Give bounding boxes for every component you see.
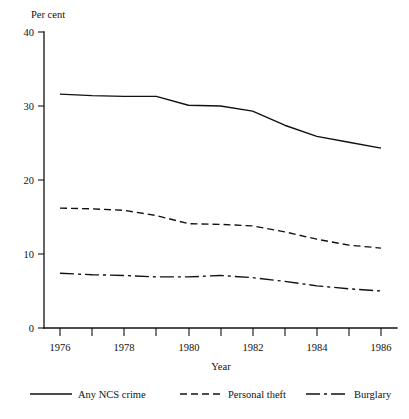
chart-legend: Any NCS crime Personal theft Burglary — [30, 389, 392, 400]
series-line-personal-theft — [60, 208, 381, 248]
y-axis-tick-labels: 40 30 20 10 0 — [24, 27, 35, 334]
x-axis-title: Year — [211, 361, 231, 372]
y-tick-label-30: 30 — [24, 101, 35, 112]
chart-figure: Per cent 40 30 20 10 0 — [0, 0, 409, 419]
x-axis-tick-labels: 1976 1978 1980 1982 1984 1986 — [50, 342, 392, 353]
y-tick-label-10: 10 — [24, 249, 35, 260]
x-tick-label-1978: 1978 — [114, 342, 135, 353]
series-line-any-ncs-crime — [60, 94, 381, 148]
x-tick-label-1980: 1980 — [179, 342, 200, 353]
legend-entry-burglary: Burglary — [306, 389, 392, 400]
y-axis-ticks — [38, 32, 44, 328]
y-axis-title: Per cent — [31, 9, 65, 20]
legend-label-any-ncs-crime: Any NCS crime — [78, 389, 146, 400]
series-line-burglary — [60, 273, 381, 291]
legend-label-personal-theft: Personal theft — [228, 389, 286, 400]
crime-rate-line-chart: Per cent 40 30 20 10 0 — [0, 0, 409, 419]
x-tick-label-1986: 1986 — [371, 342, 392, 353]
x-tick-label-1982: 1982 — [243, 342, 264, 353]
x-axis-ticks — [60, 328, 381, 336]
plot-series-group — [60, 94, 381, 291]
legend-entry-personal-theft: Personal theft — [180, 389, 286, 400]
x-tick-label-1984: 1984 — [307, 342, 329, 353]
legend-label-burglary: Burglary — [354, 389, 392, 400]
y-tick-label-20: 20 — [24, 175, 35, 186]
legend-entry-any-ncs-crime: Any NCS crime — [30, 389, 146, 400]
y-tick-label-40: 40 — [24, 27, 35, 38]
x-tick-label-1976: 1976 — [50, 342, 71, 353]
y-tick-label-0: 0 — [29, 323, 34, 334]
